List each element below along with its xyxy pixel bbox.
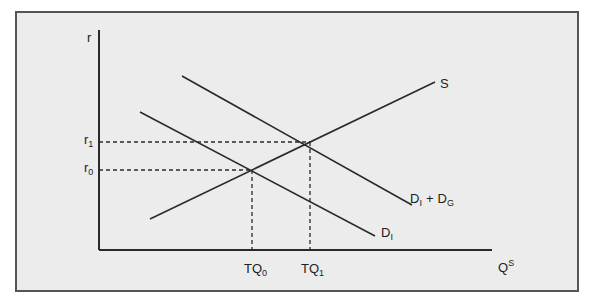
y-axis-label: r [87,30,92,45]
supply-label: S [440,76,449,91]
diagram-canvas: r QS r1 r0 TQ0 TQ1 S DI+DG DI [0,0,590,300]
